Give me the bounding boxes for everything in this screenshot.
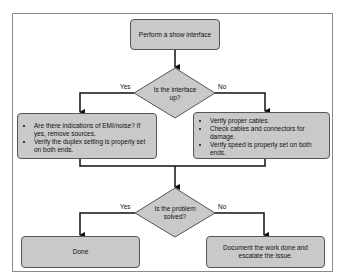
arrow-decision1-no [215,93,265,111]
arrow-decision1-yes [80,93,134,112]
decision2-yes-label: Yes [120,203,131,210]
no-box-item: Check cables and connectors for damage. [210,125,323,141]
decision1-no-label: No [218,83,226,90]
start-box: Perform a show interface [130,19,220,50]
decision2-label: Is the problem solved? [150,205,200,221]
escalate-box: Document the work done and escalate the … [206,236,325,268]
yes-box-item: Are there indications of EMI/noise? If y… [34,122,150,138]
done-box: Done [21,236,140,268]
decision2-no-label: No [218,203,226,210]
escalate-label: Document the work done and escalate the … [219,244,312,260]
yes-box-item: Verify the duplex setting is properly se… [34,138,150,154]
done-label: Done [73,248,89,256]
decision1-yes-label: Yes [120,83,131,90]
decision1-label: Is the interface up? [150,86,200,102]
interface-up-actions-box: Verify proper cables. Check cables and c… [193,112,330,159]
arrow-decision2-no [215,213,264,235]
no-box-item: Verify speed is properly set on both end… [210,141,323,157]
arrow-decision2-yes [80,213,135,235]
merge-line-left [80,159,175,166]
merge-line-right [175,159,265,166]
interface-down-actions-box: Are there indications of EMI/noise? If y… [17,113,157,159]
start-label: Perform a show interface [139,31,211,39]
no-box-item: Verify proper cables. [210,117,323,125]
